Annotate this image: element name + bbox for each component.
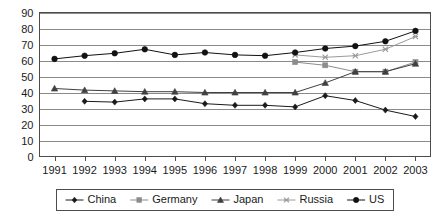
data-point-marker-diamond — [172, 96, 177, 102]
x-tick-label: 1995 — [163, 164, 187, 176]
data-point-marker-circle — [112, 51, 118, 57]
x-tick-label: 2002 — [373, 164, 397, 176]
y-tick-label: 70 — [21, 39, 33, 51]
x-tick-label: 1991 — [42, 164, 66, 176]
x-axis-tick-labels: 1991199219931994199519961997199819992000… — [42, 164, 427, 176]
data-point-marker-cross — [413, 34, 418, 39]
x-tick-label: 1998 — [253, 164, 277, 176]
y-tick-label: 60 — [21, 55, 33, 67]
data-point-marker-diamond — [112, 99, 117, 105]
x-tick-label: 1994 — [133, 164, 157, 176]
x-tick-label: 2001 — [343, 164, 367, 176]
legend-label-germany: Germany — [152, 193, 198, 205]
axes — [40, 13, 431, 161]
y-tick-label: 50 — [21, 71, 33, 83]
data-point-marker-circle — [383, 39, 389, 45]
data-point-marker-circle — [322, 46, 328, 52]
data-point-marker-diamond — [82, 98, 87, 104]
data-point-marker-diamond — [232, 102, 237, 108]
x-tick-label: 1993 — [102, 164, 126, 176]
x-tick-label: 1997 — [223, 164, 247, 176]
line-chart: 0102030405060708090 19911992199319941995… — [0, 0, 448, 217]
legend-label-japan: Japan — [234, 193, 264, 205]
x-tick-label: 2000 — [313, 164, 337, 176]
y-tick-label: 40 — [21, 87, 33, 99]
x-tick-label: 2003 — [403, 164, 427, 176]
series-line-china — [85, 96, 416, 117]
data-point-marker-circle — [142, 47, 148, 53]
data-point-marker-cross — [353, 53, 358, 58]
chart-legend: ChinaGermanyJapanRussiaUS — [57, 190, 394, 211]
series-line-japan — [55, 64, 416, 93]
y-tick-label: 10 — [21, 135, 33, 147]
data-point-marker-square — [293, 60, 298, 65]
data-point-marker-circle — [413, 28, 419, 34]
data-point-marker-circle — [82, 53, 88, 59]
gridlines — [40, 14, 431, 142]
chart-canvas: 0102030405060708090 19911992199319941995… — [0, 0, 448, 217]
y-tick-label: 90 — [21, 7, 33, 19]
y-axis-tick-labels: 0102030405060708090 — [21, 7, 33, 163]
data-point-marker-diamond — [202, 101, 207, 107]
legend-label-us: US — [369, 193, 384, 205]
data-point-marker-diamond — [413, 114, 418, 120]
x-tick-label: 1996 — [193, 164, 217, 176]
x-tick-label: 1992 — [72, 164, 96, 176]
data-point-marker-circle — [232, 52, 238, 58]
data-point-marker-square — [137, 198, 142, 203]
data-point-marker-diamond — [263, 102, 268, 108]
legend-label-china: China — [88, 193, 118, 205]
series-china — [82, 93, 418, 120]
data-point-marker-square — [323, 63, 328, 68]
y-tick-label: 0 — [27, 151, 33, 163]
data-point-marker-diamond — [383, 107, 388, 113]
data-point-marker-cross — [383, 47, 388, 52]
data-point-marker-diamond — [142, 96, 147, 102]
y-tick-label: 30 — [21, 103, 33, 115]
data-point-marker-circle — [292, 50, 298, 56]
data-point-marker-circle — [202, 50, 208, 56]
data-point-marker-circle — [262, 53, 268, 59]
data-point-marker-circle — [172, 52, 178, 58]
data-point-marker-circle — [353, 43, 359, 49]
series-us — [52, 28, 419, 62]
data-point-marker-diamond — [353, 98, 358, 104]
y-tick-label: 80 — [21, 23, 33, 35]
data-point-marker-circle — [52, 56, 58, 62]
x-tick-label: 1999 — [283, 164, 307, 176]
data-point-marker-cross — [323, 55, 328, 60]
plot-area-border — [40, 13, 431, 157]
legend-label-russia: Russia — [299, 193, 334, 205]
data-series — [51, 28, 418, 119]
data-point-marker-circle — [353, 197, 358, 202]
y-tick-label: 20 — [21, 119, 33, 131]
